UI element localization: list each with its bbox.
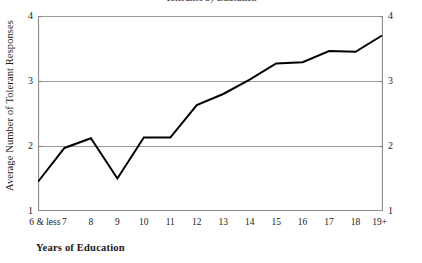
plot-area bbox=[38, 16, 383, 211]
y-tick-label-left-2: 2 bbox=[19, 141, 33, 151]
y-tick-label-right-2: 2 bbox=[388, 141, 402, 151]
chart-figure: Tolerance by Education Average Number of… bbox=[0, 0, 422, 263]
x-tick-label-2: 8 bbox=[89, 217, 94, 227]
x-tick-label-0: 6 & less bbox=[29, 217, 60, 227]
y-tick-label-right-1: 1 bbox=[388, 206, 402, 216]
data-line-series-1 bbox=[38, 36, 382, 182]
gridlines-group bbox=[38, 17, 383, 147]
x-tick-label-10: 16 bbox=[298, 217, 308, 227]
chart-title-remnant: Tolerance by Education bbox=[0, 0, 422, 7]
tick-marks-group bbox=[38, 17, 383, 212]
x-tick-label-3: 9 bbox=[115, 217, 120, 227]
axis-frame-group bbox=[38, 16, 383, 211]
x-tick-label-4: 10 bbox=[139, 217, 149, 227]
y-axis-title-text: Average Number of Tolerant Responses bbox=[4, 20, 15, 191]
x-tick-label-6: 12 bbox=[192, 217, 202, 227]
x-tick-label-5: 11 bbox=[166, 217, 175, 227]
x-tick-label-12: 18 bbox=[351, 217, 361, 227]
y-axis-title: Average Number of Tolerant Responses bbox=[0, 0, 18, 211]
x-tick-label-11: 17 bbox=[324, 217, 334, 227]
x-axis-title: Years of Education bbox=[36, 242, 125, 253]
chart-canvas bbox=[38, 16, 383, 211]
y-tick-label-left-3: 3 bbox=[19, 76, 33, 86]
x-tick-label-9: 15 bbox=[271, 217, 281, 227]
x-tick-label-7: 13 bbox=[218, 217, 228, 227]
y-tick-label-right-4: 4 bbox=[388, 11, 402, 21]
y-tick-label-right-3: 3 bbox=[388, 76, 402, 86]
y-tick-label-left-4: 4 bbox=[19, 11, 33, 21]
chart-title-text: Tolerance by Education bbox=[165, 0, 256, 3]
x-tick-label-8: 14 bbox=[245, 217, 255, 227]
x-tick-label-13: 19+ bbox=[372, 217, 387, 227]
x-tick-label-1: 7 bbox=[62, 217, 67, 227]
y-tick-label-left-1: 1 bbox=[19, 206, 33, 216]
